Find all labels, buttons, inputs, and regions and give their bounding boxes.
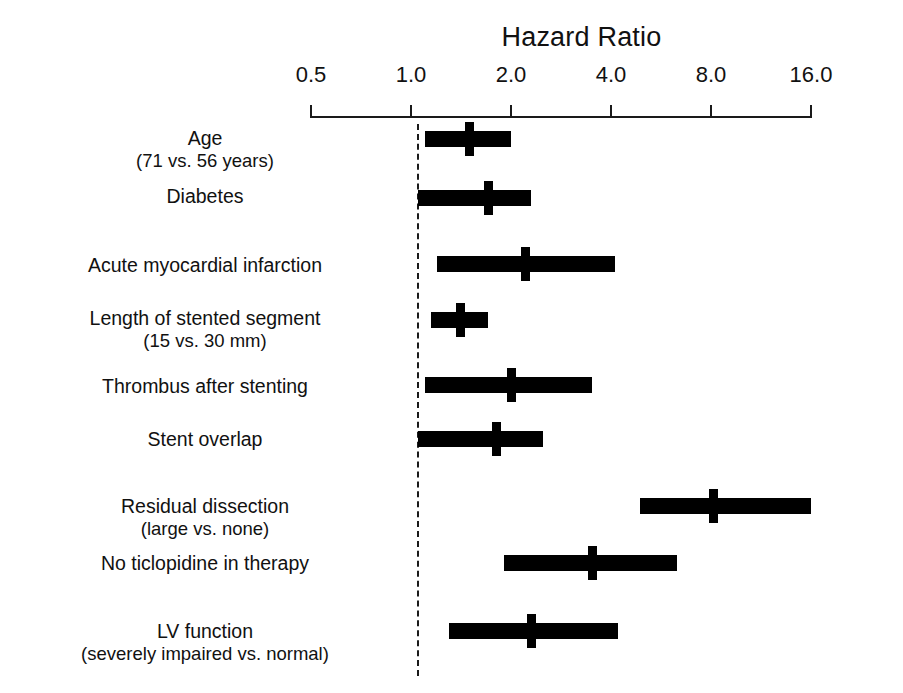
point-estimate-marker-6 (709, 489, 718, 523)
point-estimate-marker-4 (507, 368, 516, 402)
row-label-6: Residual dissection(large vs. none) (0, 495, 410, 540)
row-label-4: Thrombus after stenting (0, 375, 410, 398)
row-sublabel-0: (71 vs. 56 years) (0, 150, 410, 172)
row-label-2: Acute myocardial infarction (0, 254, 410, 277)
x-tick-mark-5 (810, 105, 812, 118)
point-estimate-marker-5 (492, 422, 501, 456)
point-estimate-marker-1 (484, 181, 493, 215)
row-label-main-8: LV function (157, 620, 253, 642)
row-label-main-5: Stent overlap (148, 428, 263, 450)
point-estimate-marker-0 (465, 122, 474, 156)
x-axis-rule (311, 116, 811, 118)
point-estimate-marker-7 (588, 546, 597, 580)
point-estimate-marker-3 (456, 303, 465, 337)
x-tick-mark-1 (410, 105, 412, 118)
chart-title: Hazard Ratio (0, 22, 903, 53)
x-tick-label-1: 1.0 (396, 62, 427, 88)
confidence-interval-bar-1 (418, 190, 531, 206)
forest-plot: Hazard Ratio 0.51.02.04.08.016.0 Age(71 … (0, 0, 903, 693)
row-sublabel-6: (large vs. none) (0, 518, 410, 540)
hazard-ratio-1-reference-line (417, 124, 419, 676)
point-estimate-marker-8 (527, 614, 536, 648)
row-label-8: LV function(severely impaired vs. normal… (0, 620, 410, 665)
chart-title-text: Hazard Ratio (502, 22, 662, 53)
x-tick-label-0: 0.5 (296, 62, 327, 88)
row-label-3: Length of stented segment(15 vs. 30 mm) (0, 307, 410, 352)
row-label-main-4: Thrombus after stenting (102, 375, 308, 397)
row-sublabel-3: (15 vs. 30 mm) (0, 330, 410, 352)
confidence-interval-bar-5 (418, 431, 543, 447)
confidence-interval-bar-6 (640, 498, 811, 514)
row-label-main-6: Residual dissection (121, 495, 289, 517)
x-tick-label-3: 4.0 (596, 62, 627, 88)
x-tick-label-5: 16.0 (790, 62, 833, 88)
row-label-main-2: Acute myocardial infarction (88, 254, 322, 276)
row-label-5: Stent overlap (0, 428, 410, 451)
row-label-1: Diabetes (0, 185, 410, 208)
x-tick-mark-3 (610, 105, 612, 118)
x-tick-label-4: 8.0 (696, 62, 727, 88)
row-label-7: No ticlopidine in therapy (0, 552, 410, 575)
row-label-main-1: Diabetes (167, 185, 244, 207)
row-label-main-0: Age (188, 127, 223, 149)
x-tick-label-2: 2.0 (496, 62, 527, 88)
x-tick-mark-2 (510, 105, 512, 118)
row-label-0: Age(71 vs. 56 years) (0, 127, 410, 172)
row-label-main-7: No ticlopidine in therapy (101, 552, 309, 574)
row-label-main-3: Length of stented segment (90, 307, 321, 329)
point-estimate-marker-2 (521, 247, 530, 281)
x-tick-mark-4 (710, 105, 712, 118)
x-tick-mark-0 (310, 105, 312, 118)
row-sublabel-8: (severely impaired vs. normal) (0, 643, 410, 665)
